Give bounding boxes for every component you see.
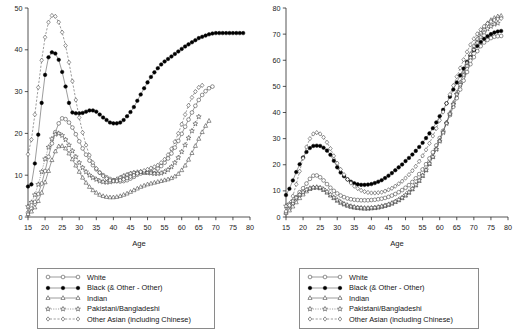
svg-text:65: 65: [453, 223, 461, 232]
legend-marker-open-circle-icon: [43, 272, 83, 282]
svg-text:65: 65: [195, 223, 203, 232]
svg-text:45: 45: [384, 223, 392, 232]
chart-panel-right: 0102030405060708015202530354045505560657…: [258, 0, 515, 327]
legend-label: Pakistani/Bangladeshi: [83, 304, 160, 313]
svg-text:70: 70: [470, 223, 478, 232]
svg-text:40: 40: [367, 223, 375, 232]
svg-text:50: 50: [144, 223, 152, 232]
legend-item-0: White: [43, 272, 208, 283]
legend-marker-star-icon: [43, 304, 83, 314]
svg-text:70: 70: [212, 223, 220, 232]
legend-label: White: [83, 273, 106, 282]
svg-text:20: 20: [299, 223, 307, 232]
legend-item-3: Pakistani/Bangladeshi: [305, 304, 472, 315]
svg-text:30: 30: [15, 87, 23, 96]
svg-text:0: 0: [277, 213, 281, 222]
legend-item-1: Black (& Other - Other): [305, 283, 472, 294]
chart-svg-left: 010203040501520253035404550556065707580A…: [0, 0, 257, 262]
legend-label: Indian: [345, 294, 369, 303]
svg-text:35: 35: [350, 223, 358, 232]
chart-panel-left: 010203040501520253035404550556065707580A…: [0, 0, 257, 327]
svg-text:60: 60: [178, 223, 186, 232]
legend-item-1: Black (& Other - Other): [43, 283, 208, 294]
svg-text:75: 75: [229, 223, 237, 232]
legend-label: Other Asian (including Chinese): [345, 315, 453, 324]
legend-marker-open-triangle-icon: [305, 293, 345, 303]
svg-text:15: 15: [24, 223, 32, 232]
svg-text:Age: Age: [132, 239, 146, 248]
svg-text:15: 15: [282, 223, 290, 232]
svg-text:40: 40: [15, 45, 23, 54]
svg-text:45: 45: [126, 223, 134, 232]
legend-label: White: [345, 273, 368, 282]
legend-item-2: Indian: [43, 293, 208, 304]
svg-text:25: 25: [58, 223, 66, 232]
svg-text:30: 30: [273, 134, 281, 143]
svg-text:80: 80: [246, 223, 254, 232]
svg-text:40: 40: [109, 223, 117, 232]
legend-label: Other Asian (including Chinese): [83, 315, 191, 324]
legend-marker-open-triangle-icon: [43, 293, 83, 303]
svg-text:50: 50: [15, 4, 23, 13]
plot-area-right: 0102030405060708015202530354045505560657…: [258, 0, 515, 262]
legend-left: WhiteBlack (& Other - Other)IndianPakist…: [37, 268, 215, 329]
svg-text:55: 55: [419, 223, 427, 232]
legend-item-2: Indian: [305, 293, 472, 304]
svg-text:80: 80: [273, 4, 281, 13]
svg-text:55: 55: [161, 223, 169, 232]
svg-text:40: 40: [273, 108, 281, 117]
svg-text:70: 70: [273, 30, 281, 39]
legend-marker-open-circle-icon: [305, 272, 345, 282]
svg-text:30: 30: [75, 223, 83, 232]
plot-area-left: 010203040501520253035404550556065707580A…: [0, 0, 257, 262]
svg-text:60: 60: [436, 223, 444, 232]
legend-label: Black (& Other - Other): [83, 283, 163, 292]
svg-text:20: 20: [15, 129, 23, 138]
legend-marker-star-icon: [305, 304, 345, 314]
legend-item-4: Other Asian (including Chinese): [43, 314, 208, 325]
legend-marker-diamond-icon: [43, 314, 83, 324]
svg-text:60: 60: [273, 56, 281, 65]
legend-item-0: White: [305, 272, 472, 283]
svg-text:75: 75: [487, 223, 495, 232]
legend-marker-diamond-icon: [305, 314, 345, 324]
svg-text:25: 25: [316, 223, 324, 232]
svg-text:30: 30: [333, 223, 341, 232]
svg-text:35: 35: [92, 223, 100, 232]
svg-text:Age: Age: [390, 239, 404, 248]
svg-text:20: 20: [273, 160, 281, 169]
legend-marker-filled-circle-icon: [305, 283, 345, 293]
chart-svg-right: 0102030405060708015202530354045505560657…: [258, 0, 515, 262]
legend-label: Pakistani/Bangladeshi: [345, 304, 422, 313]
svg-text:10: 10: [273, 186, 281, 195]
svg-text:10: 10: [15, 171, 23, 180]
svg-text:50: 50: [402, 223, 410, 232]
svg-text:80: 80: [504, 223, 512, 232]
legend-item-3: Pakistani/Bangladeshi: [43, 304, 208, 315]
legend-label: Black (& Other - Other): [345, 283, 425, 292]
legend-label: Indian: [83, 294, 107, 303]
legend-item-4: Other Asian (including Chinese): [305, 314, 472, 325]
legend-right: WhiteBlack (& Other - Other)IndianPakist…: [299, 268, 479, 329]
svg-text:50: 50: [273, 82, 281, 91]
legend-marker-filled-circle-icon: [43, 283, 83, 293]
svg-text:20: 20: [41, 223, 49, 232]
svg-text:0: 0: [19, 213, 23, 222]
